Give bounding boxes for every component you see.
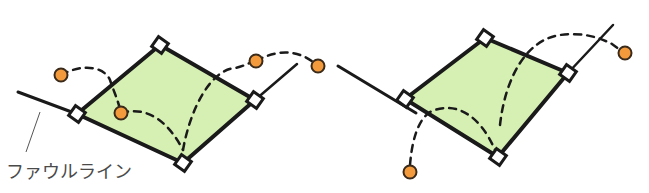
foul-line-right (255, 64, 297, 100)
ball-icon (115, 107, 128, 120)
ball-icon (312, 60, 325, 73)
foul-line-left (18, 92, 77, 114)
foul-line-label: ファウルライン (6, 157, 132, 183)
foul-line-right (568, 25, 613, 73)
ball-trajectory (256, 52, 318, 66)
right-diagram-infield (405, 38, 568, 157)
ball-icon (250, 55, 263, 68)
label-leader-line (26, 112, 40, 152)
ball-icon (404, 166, 417, 179)
left-diagram-infield (77, 45, 255, 163)
ball-icon (55, 69, 68, 82)
ball-icon (619, 47, 632, 60)
